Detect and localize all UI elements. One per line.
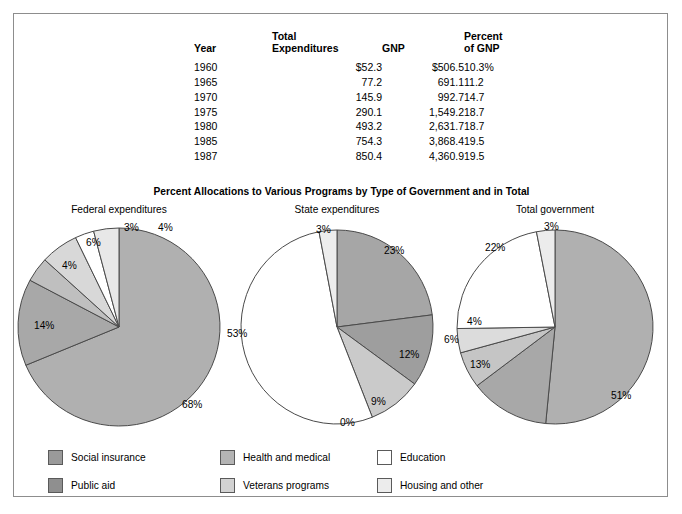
legend-swatch-icon: [220, 478, 235, 493]
table-cell-year: 1980: [194, 119, 272, 134]
column-header-year: Year: [194, 31, 272, 60]
pie-label-total-1: 13%: [470, 359, 490, 370]
table-cell-year: 1975: [194, 104, 272, 119]
pie-label-total-0: 51%: [611, 390, 631, 401]
table-cell-year: 1970: [194, 90, 272, 105]
legend-item: Veterans programs: [220, 478, 329, 493]
table-cell-percent-of-gnp: 19.5: [464, 149, 544, 164]
legend-swatch-icon: [377, 450, 392, 465]
pie-chart-total-government: [446, 218, 664, 436]
table-header-row: Year Total Expenditures GNP Percent of G…: [194, 31, 544, 60]
pie-label-federal-4: 3%: [124, 222, 139, 233]
column-header-gnp: GNP: [382, 31, 464, 60]
table-cell-total-expenditures: 145.9: [272, 90, 382, 105]
pie-label-federal-3: 6%: [86, 237, 101, 248]
legend-swatch-icon: [377, 478, 392, 493]
table-row: 1980493.22,631.718.7: [194, 119, 544, 134]
pie-label-state-3: 0%: [340, 417, 355, 428]
table-cell-total-expenditures: $52.3: [272, 60, 382, 75]
charts-subtitle: Percent Allocations to Various Programs …: [14, 186, 669, 197]
table-cell-gnp: $506.5: [382, 60, 464, 75]
pie-panel-federal: Federal expenditures 4% 3% 6% 4% 14% 68%: [10, 204, 228, 436]
pie-label-federal-5: 4%: [158, 222, 173, 233]
table-cell-percent-of-gnp: 19.5: [464, 134, 544, 149]
legend-swatch-icon: [220, 450, 235, 465]
table-cell-percent-of-gnp: 14.7: [464, 90, 544, 105]
column-header-percent-of-gnp: Percent of GNP: [464, 31, 544, 60]
table-cell-percent-of-gnp: 18.7: [464, 119, 544, 134]
pie-label-federal-1: 14%: [34, 320, 54, 331]
pie-title-total: Total government: [446, 204, 664, 215]
pie-label-state-5: 3%: [316, 224, 331, 235]
pie-title-state: State expenditures: [228, 204, 446, 215]
legend-label: Health and medical: [243, 452, 330, 463]
table-cell-gnp: 691.1: [382, 75, 464, 90]
table-cell-gnp: 1,549.2: [382, 104, 464, 119]
table-cell-total-expenditures: 77.2: [272, 75, 382, 90]
legend-label: Public aid: [71, 480, 115, 491]
table-row: 1985754.33,868.419.5: [194, 134, 544, 149]
pie-label-state-2: 9%: [371, 396, 386, 407]
table-cell-gnp: 4,360.9: [382, 149, 464, 164]
table-cell-total-expenditures: 754.3: [272, 134, 382, 149]
table-cell-total-expenditures: 493.2: [272, 119, 382, 134]
legend-label: Education: [400, 452, 445, 463]
table-cell-year: 1987: [194, 149, 272, 164]
legend: Social insurancePublic aidHealth and med…: [48, 446, 648, 504]
pie-label-state-1: 12%: [399, 349, 419, 360]
table-row: 1975290.11,549.218.7: [194, 104, 544, 119]
legend-item: Social insurance: [48, 450, 146, 465]
table-cell-year: 1965: [194, 75, 272, 90]
figure-frame: Year Total Expenditures GNP Percent of G…: [13, 13, 668, 497]
pie-label-total-4: 22%: [485, 242, 505, 253]
table-cell-total-expenditures: 290.1: [272, 104, 382, 119]
legend-swatch-icon: [48, 450, 63, 465]
pie-title-federal: Federal expenditures: [10, 204, 228, 215]
table-cell-year: 1985: [194, 134, 272, 149]
table-cell-percent-of-gnp: 18.7: [464, 104, 544, 119]
pie-label-federal-2: 4%: [62, 260, 77, 271]
legend-label: Veterans programs: [243, 480, 329, 491]
expenditures-table: Year Total Expenditures GNP Percent of G…: [194, 31, 544, 163]
column-header-total-expenditures: Total Expenditures: [272, 31, 382, 60]
legend-label: Housing and other: [400, 480, 483, 491]
legend-item: Housing and other: [377, 478, 483, 493]
table-cell-year: 1960: [194, 60, 272, 75]
pie-panel-total-government: Total government 3% 22% 4% 6% 13% 51%: [446, 204, 664, 436]
pie-label-total-5: 3%: [544, 221, 559, 232]
pie-label-federal-0: 68%: [182, 399, 202, 410]
legend-label: Social insurance: [71, 452, 146, 463]
table-row: 1970145.9992.714.7: [194, 90, 544, 105]
legend-item: Education: [377, 450, 445, 465]
table-body: 1960$52.3$506.510.3%196577.2691.111.2197…: [194, 60, 544, 163]
pie-label-state-0: 23%: [384, 245, 404, 256]
table-row: 196577.2691.111.2: [194, 75, 544, 90]
pie-slice: [546, 230, 653, 424]
legend-item: Health and medical: [220, 450, 330, 465]
pie-chart-state: [228, 218, 446, 436]
table-cell-gnp: 2,631.7: [382, 119, 464, 134]
table-row: 1987850.44,360.919.5: [194, 149, 544, 164]
table-cell-percent-of-gnp: 10.3%: [464, 60, 544, 75]
legend-swatch-icon: [48, 478, 63, 493]
table-cell-gnp: 3,868.4: [382, 134, 464, 149]
table-cell-percent-of-gnp: 11.2: [464, 75, 544, 90]
table-cell-total-expenditures: 850.4: [272, 149, 382, 164]
pie-panel-state: State expenditures 3% 23% 12% 9% 0% 53%: [228, 204, 446, 436]
table-row: 1960$52.3$506.510.3%: [194, 60, 544, 75]
table-cell-gnp: 992.7: [382, 90, 464, 105]
pie-label-total-3: 4%: [467, 316, 482, 327]
legend-item: Public aid: [48, 478, 115, 493]
pie-label-total-2: 6%: [444, 334, 459, 345]
pie-label-state-4: 53%: [227, 328, 247, 339]
